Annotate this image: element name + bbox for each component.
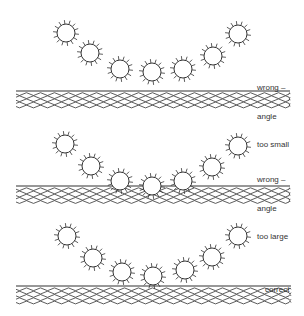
particle-icon	[172, 257, 198, 283]
label-wrong-angle-too-small: wrong – angle too small	[257, 64, 289, 159]
particle-icon	[225, 133, 251, 159]
label-line: correct	[265, 285, 289, 295]
water-surface	[16, 91, 290, 108]
particle-icon	[77, 40, 103, 66]
particle-icon	[199, 154, 225, 180]
particle-icon	[53, 20, 79, 46]
particle-icon	[170, 168, 196, 194]
particle-icon	[200, 43, 226, 69]
particle-icon	[54, 223, 80, 249]
particle-icon	[78, 153, 104, 179]
particle-icon	[139, 59, 165, 85]
label-correct: correct	[265, 266, 289, 304]
particle-icon	[80, 245, 106, 271]
panel-angle-too-small	[16, 20, 290, 108]
particle-icon	[140, 263, 166, 289]
panel-angle-too-large	[16, 131, 290, 203]
label-wrong-angle-too-large: wrong – angle too large	[257, 156, 288, 251]
particle-icon	[139, 173, 165, 199]
label-line: angle	[257, 112, 289, 122]
water-surface	[16, 286, 291, 304]
particle-icon	[109, 259, 135, 285]
particle-icon	[225, 223, 251, 249]
particle-icon	[225, 21, 251, 47]
label-line: angle	[257, 204, 288, 214]
particle-icon	[170, 56, 196, 82]
label-line: wrong –	[257, 83, 289, 93]
particle-icon	[107, 56, 133, 82]
panel-correct-angle	[16, 223, 291, 304]
particle-icon	[52, 131, 78, 157]
label-line: too small	[257, 140, 289, 150]
label-line: wrong –	[257, 175, 288, 185]
label-line: too large	[257, 232, 288, 242]
particle-icon	[199, 244, 225, 270]
